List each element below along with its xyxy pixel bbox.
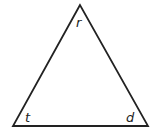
triangle-diagram: r t d [0,0,164,131]
angle-label-bottom-left: t [25,110,31,125]
angle-label-top: r [76,15,83,30]
angle-label-bottom-right: d [126,110,135,125]
